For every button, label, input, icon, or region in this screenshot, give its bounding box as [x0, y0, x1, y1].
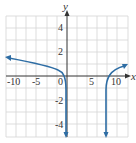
svg-text:-5: -5: [32, 76, 40, 87]
chart: x y -10 -5 0 5 10 4 2 -2 -4: [0, 0, 136, 143]
x-axis-label: x: [130, 70, 136, 82]
svg-text:10: 10: [111, 76, 121, 87]
svg-text:5: 5: [89, 76, 94, 87]
svg-text:-2: -2: [55, 95, 63, 106]
svg-text:-10: -10: [7, 76, 20, 87]
svg-text:0: 0: [58, 76, 63, 87]
y-axis-label: y: [62, 0, 68, 12]
svg-text:2: 2: [58, 46, 63, 57]
svg-text:4: 4: [58, 22, 63, 33]
svg-text:-4: -4: [55, 119, 63, 130]
